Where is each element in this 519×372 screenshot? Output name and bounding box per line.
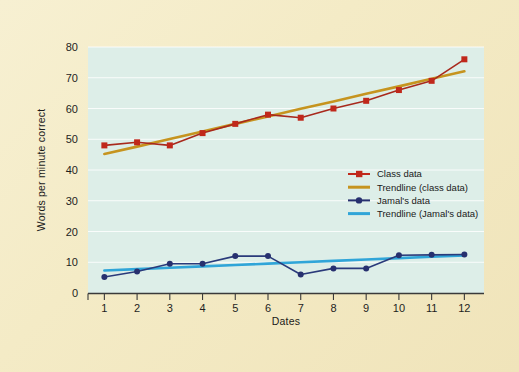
data-point-marker [429, 78, 435, 84]
data-point-marker [167, 261, 173, 267]
y-tick-label: 30 [66, 195, 78, 207]
legend-swatch-marker [356, 197, 362, 203]
x-tick-label: 8 [330, 302, 336, 314]
data-point-marker [396, 252, 402, 258]
data-point-marker [134, 139, 140, 145]
y-tick-label: 80 [66, 41, 78, 53]
data-point-marker [330, 265, 336, 271]
data-point-marker [461, 252, 467, 258]
data-point-marker [363, 98, 369, 104]
data-point-marker [232, 253, 238, 259]
y-tick-label: 70 [66, 72, 78, 84]
legend-label: Trendline (Jamal's data) [377, 208, 478, 219]
line-chart: 01020304050607080 123456789101112 Dates … [0, 0, 519, 372]
legend-swatch-marker [356, 171, 362, 177]
data-point-marker [101, 274, 107, 280]
data-point-marker [232, 121, 238, 127]
data-point-marker [396, 87, 402, 93]
data-point-marker [134, 268, 140, 274]
x-tick-label: 9 [363, 302, 369, 314]
y-tick-label: 0 [72, 287, 78, 299]
y-tick-label: 10 [66, 256, 78, 268]
x-tick-label: 7 [298, 302, 304, 314]
data-point-marker [200, 130, 206, 136]
legend-label: Class data [377, 168, 423, 179]
x-tick-label: 4 [199, 302, 205, 314]
legend-label: Jamal's data [377, 195, 431, 206]
data-point-marker [101, 142, 107, 148]
chart-figure: 01020304050607080 123456789101112 Dates … [0, 0, 519, 372]
data-point-marker [298, 272, 304, 278]
data-point-marker [265, 253, 271, 259]
y-tick-label: 50 [66, 133, 78, 145]
data-point-marker [461, 56, 467, 62]
y-tick-label: 60 [66, 103, 78, 115]
data-point-marker [330, 106, 336, 112]
data-point-marker [167, 142, 173, 148]
x-tick-label: 2 [134, 302, 140, 314]
y-tick-label: 40 [66, 164, 78, 176]
x-axis-tick-labels: 123456789101112 [101, 302, 470, 314]
y-tick-label: 20 [66, 226, 78, 238]
data-point-marker [298, 115, 304, 121]
x-axis-ticks [88, 294, 464, 301]
x-tick-label: 3 [167, 302, 173, 314]
x-tick-label: 1 [101, 302, 107, 314]
x-tick-label: 10 [393, 302, 405, 314]
data-point-marker [265, 112, 271, 118]
data-point-marker [363, 265, 369, 271]
x-tick-label: 5 [232, 302, 238, 314]
legend-label: Trendline (class data) [377, 182, 468, 193]
x-tick-label: 6 [265, 302, 271, 314]
data-point-marker [429, 252, 435, 258]
x-tick-label: 12 [458, 302, 470, 314]
y-axis-title: Words per minute correct [35, 109, 47, 231]
data-point-marker [200, 261, 206, 267]
x-tick-label: 11 [426, 302, 437, 314]
y-axis-tick-labels: 01020304050607080 [66, 41, 78, 299]
x-axis-title: Dates [272, 315, 300, 327]
